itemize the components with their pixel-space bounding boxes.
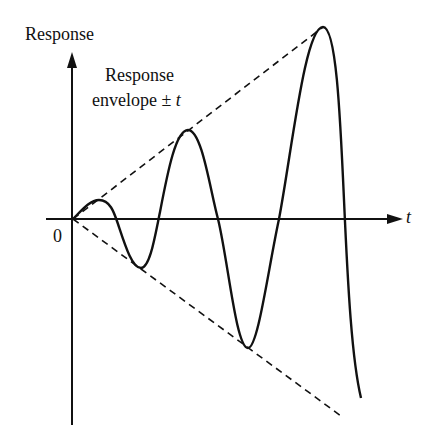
envelope-label-text: envelope ± <box>92 90 176 110</box>
diagram-canvas <box>0 0 432 443</box>
lower-envelope-line <box>73 219 341 416</box>
y-axis-arrow-icon <box>67 52 77 68</box>
origin-label: 0 <box>53 227 62 245</box>
envelope-label-line2: envelope ± t <box>92 91 181 109</box>
upper-envelope-line <box>73 27 323 219</box>
y-axis-label: Response <box>25 25 94 43</box>
x-axis-arrow-icon <box>387 214 403 224</box>
x-axis-label: t <box>406 208 411 226</box>
envelope-label-line1: Response <box>105 66 174 84</box>
envelope-label-var: t <box>176 90 181 110</box>
